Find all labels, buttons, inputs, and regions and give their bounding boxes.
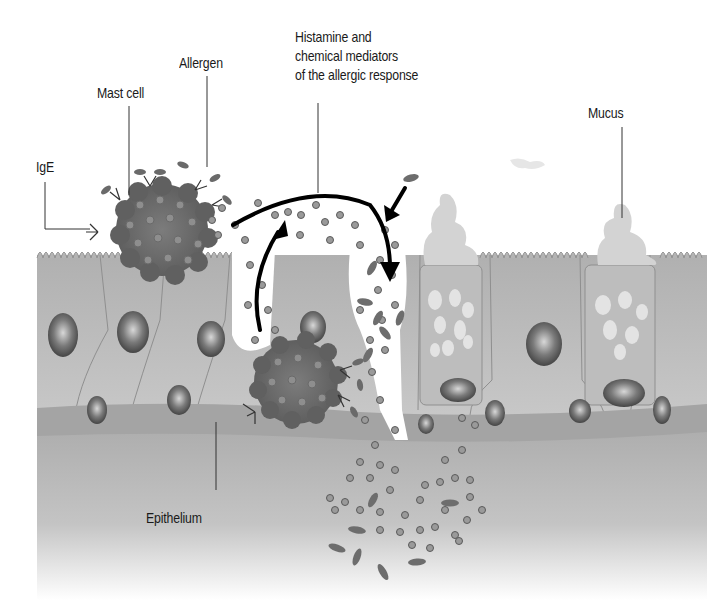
label-histamine-line1: Histamine and bbox=[295, 28, 372, 45]
label-ige: IgE bbox=[36, 158, 54, 175]
mucus bbox=[424, 158, 657, 265]
label-histamine-line2: chemical mediators bbox=[295, 47, 398, 64]
ige-leader bbox=[45, 182, 90, 229]
label-epithelium: Epithelium bbox=[146, 509, 202, 526]
short-arrow-down bbox=[392, 188, 405, 210]
allergy-diagram: IgE Mast cell Allergen Histamine and che… bbox=[0, 0, 707, 612]
arrowhead-up-icon bbox=[272, 220, 288, 240]
label-mucus: Mucus bbox=[588, 104, 623, 121]
label-mast-cell: Mast cell bbox=[97, 84, 144, 101]
label-histamine-line3: of the allergic response bbox=[295, 66, 418, 83]
label-allergen: Allergen bbox=[179, 54, 223, 71]
